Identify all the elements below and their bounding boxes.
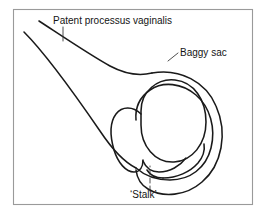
label-baggy-sac: Baggy sac bbox=[180, 47, 227, 58]
anatomy-figure: Patent processus vaginalis Baggy sac ‘St… bbox=[0, 0, 265, 223]
label-patent-processus-vaginalis: Patent processus vaginalis bbox=[53, 15, 172, 26]
label-stalk: ‘Stalk’ bbox=[130, 189, 157, 200]
anatomy-diagram-canvas: Patent processus vaginalis Baggy sac ‘St… bbox=[0, 0, 265, 223]
